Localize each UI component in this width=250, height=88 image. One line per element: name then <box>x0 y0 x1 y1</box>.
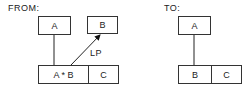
from-box-ab-c: A * B C <box>38 65 119 84</box>
arrow-label-lp: LP <box>90 49 102 58</box>
to-cell-c: C <box>211 66 241 83</box>
to-box-a: A <box>178 16 211 35</box>
from-box-b: B <box>87 16 118 34</box>
from-cell-c: C <box>88 66 118 83</box>
to-heading: TO: <box>164 4 180 13</box>
from-heading: FROM: <box>8 4 40 13</box>
from-cell-a-star-b: A * B <box>39 66 88 83</box>
to-box-b-c: B C <box>178 65 242 84</box>
from-box-a: A <box>38 16 71 35</box>
to-cell-b: B <box>179 66 211 83</box>
